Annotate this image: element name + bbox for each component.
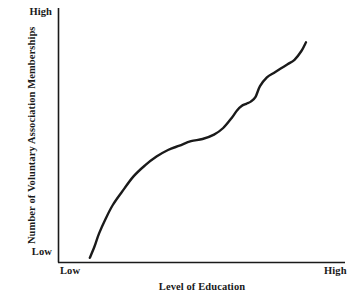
y-axis-title: Number of Voluntary Association Membersh… (27, 10, 38, 260)
x-axis-tick-label-high: High (324, 266, 347, 277)
x-axis-tick-label-low: Low (60, 266, 80, 277)
data-series-line (90, 42, 306, 258)
chart-figure: High Low Low High Number of Voluntary As… (0, 0, 357, 301)
x-axis-title: Level of Education (58, 282, 346, 293)
chart-plot-area (0, 0, 357, 301)
